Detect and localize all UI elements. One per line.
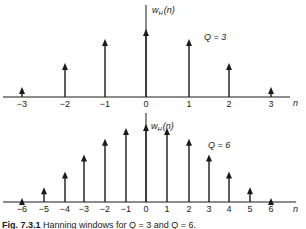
bottom-tick-label: 0 bbox=[143, 204, 148, 214]
top-tick-label: 3 bbox=[268, 99, 273, 109]
top-tick-label: −2 bbox=[60, 99, 70, 109]
bottom-tick-label: 1 bbox=[164, 204, 169, 214]
caption-text: Hanning windows for Q = 3 and Q = 6. bbox=[43, 220, 196, 229]
stem-plots: −3−2−10123 wH(n) Q = 3 n −6−5−4−3−2−1012… bbox=[0, 0, 306, 229]
bottom-tick-label: 4 bbox=[226, 204, 231, 214]
bottom-tick-label: 6 bbox=[268, 204, 273, 214]
top-ylabel: wH(n) bbox=[152, 5, 175, 16]
bottom-tick-label: −6 bbox=[17, 204, 27, 214]
bottom-arrowhead-icon bbox=[123, 128, 129, 135]
top-arrowhead-icon bbox=[268, 87, 274, 94]
bottom-n-label: n bbox=[293, 204, 298, 214]
top-n-label: n bbox=[293, 98, 298, 108]
top-arrowhead-icon bbox=[62, 63, 68, 70]
bottom-stem-plot: −6−5−4−3−2−10123456 wH(n) Q = 6 n bbox=[3, 113, 298, 214]
top-q-label: Q = 3 bbox=[204, 32, 226, 42]
bottom-arrowhead-icon bbox=[247, 187, 253, 194]
bottom-arrowhead-icon bbox=[143, 124, 149, 131]
bottom-tick-label: −3 bbox=[79, 204, 89, 214]
bottom-tick-label: −5 bbox=[39, 204, 49, 214]
caption-prefix: Fig. 7.3.1 bbox=[2, 220, 41, 229]
top-stem-plot: −3−2−10123 wH(n) Q = 3 n bbox=[3, 5, 298, 109]
top-tick-label: −1 bbox=[100, 99, 110, 109]
bottom-tick-label: −2 bbox=[100, 204, 110, 214]
bottom-tick-label: −1 bbox=[121, 204, 131, 214]
bottom-arrowhead-icon bbox=[102, 139, 108, 146]
top-arrowhead-icon bbox=[143, 29, 149, 36]
bottom-arrowhead-icon bbox=[62, 172, 68, 179]
top-arrowhead-icon bbox=[226, 63, 232, 70]
bottom-tick-label: −4 bbox=[60, 204, 70, 214]
top-tick-label: 0 bbox=[143, 99, 148, 109]
top-arrowhead-icon bbox=[102, 39, 108, 46]
bottom-arrowhead-icon bbox=[226, 172, 232, 179]
top-arrowhead-icon bbox=[186, 39, 192, 46]
top-tick-label: 2 bbox=[226, 99, 231, 109]
figure-caption: Fig. 7.3.1 Hanning windows for Q = 3 and… bbox=[2, 220, 196, 229]
top-tick-label: −3 bbox=[17, 99, 27, 109]
bottom-arrowhead-icon bbox=[81, 154, 87, 161]
bottom-tick-label: 5 bbox=[247, 204, 252, 214]
bottom-arrowhead-icon bbox=[206, 154, 212, 161]
bottom-q-label: Q = 6 bbox=[208, 140, 230, 150]
bottom-ylabel: wH(n) bbox=[151, 121, 174, 132]
bottom-arrowhead-icon bbox=[41, 187, 47, 194]
bottom-arrowhead-icon bbox=[186, 139, 192, 146]
top-arrowhead-icon bbox=[19, 87, 25, 94]
bottom-tick-label: 2 bbox=[186, 204, 191, 214]
top-tick-label: 1 bbox=[186, 99, 191, 109]
bottom-tick-label: 3 bbox=[206, 204, 211, 214]
